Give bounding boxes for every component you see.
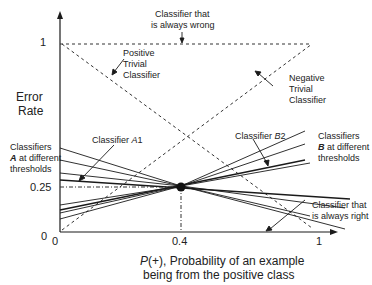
x-axis-label-line1: P(+), Probability of an example <box>140 254 305 268</box>
classifier-b-line <box>181 144 305 186</box>
always-wrong-label: Classifier that <box>155 9 210 19</box>
y-axis-arrow-icon <box>57 11 63 19</box>
classifier-b-line <box>181 163 310 186</box>
arrow-icon <box>180 38 184 43</box>
y-tick-1: 1 <box>40 36 46 48</box>
classifier-a-line <box>60 160 181 186</box>
y-axis-label-line2: Rate <box>18 104 44 118</box>
always-wrong-label: is always wrong <box>151 20 215 30</box>
classifier-b2-label: Classifier B2 <box>235 131 286 141</box>
classifiers-b-label: thresholds <box>318 153 360 163</box>
negative-trivial-label: Trivial <box>289 84 313 94</box>
always-right-label: Classifier that <box>312 200 367 210</box>
arrow-icon <box>264 160 269 166</box>
y-axis-label-line1: Error <box>16 90 43 104</box>
classifier-a1-label: Classifier A1 <box>92 135 143 145</box>
intersection-point <box>177 183 186 192</box>
classifier-a-line <box>60 148 181 186</box>
classifier-b-line <box>60 186 181 213</box>
x-tick-0: 0 <box>52 235 58 247</box>
reference-lines <box>60 187 181 232</box>
negative-trivial-label: Negative <box>289 73 325 83</box>
x-tick-labels: 0 0.4 1 <box>52 235 322 247</box>
y-tick-labels: 1 0.25 0 <box>30 36 51 242</box>
y-tick-0.25: 0.25 <box>30 181 51 193</box>
y-tick-0: 0 <box>41 230 47 242</box>
classifiers-a-label: Classifiers <box>10 142 52 152</box>
x-axis-label-line2: being from the positive class <box>143 268 294 282</box>
arrow-icon <box>266 226 272 231</box>
x-axis-arrow-icon <box>330 229 338 235</box>
classifiers-b-label: B at different <box>318 142 370 152</box>
x-tick-1: 1 <box>316 235 322 247</box>
positive-trivial-label: Positive <box>123 48 155 58</box>
positive-trivial-label: Trivial <box>123 59 147 69</box>
negative-trivial-label: Classifier <box>289 95 326 105</box>
positive-trivial-label: Classifier <box>123 70 160 80</box>
classifiers-b-label: Classifiers <box>318 131 360 141</box>
cost-curve-diagram: 1 0.25 0 0 0.4 1 Error Rate P(+), Probab… <box>0 0 372 285</box>
x-tick-0.4: 0.4 <box>172 235 187 247</box>
classifiers-a-label: thresholds <box>10 164 52 174</box>
always-right-label: is always right <box>312 211 369 221</box>
classifiers-a-lines <box>60 148 350 229</box>
classifiers-a-label: A at different <box>9 153 62 163</box>
annotations: Classifier that is always wrong Positive… <box>9 9 370 221</box>
arrow-icon <box>112 69 117 75</box>
